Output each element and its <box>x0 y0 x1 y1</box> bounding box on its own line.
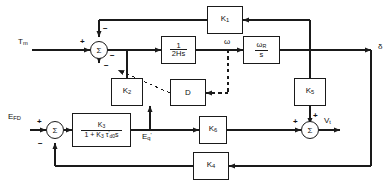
sign-field-plus: + <box>37 118 42 126</box>
sign-torque-minus-top: − <box>103 25 108 33</box>
torque-summing-junction[interactable]: Σ <box>90 41 108 59</box>
field-voltage-input-label: EFD <box>8 113 21 122</box>
q-axis-voltage-label: Eq' <box>142 133 152 142</box>
sign-torque-minus-right: − <box>110 52 115 60</box>
exciter-transfer-block[interactable]: K3 1 + K3 τ'd0s <box>72 113 131 147</box>
block-diagram-canvas: K1 1 2Hs ωR s K2 D K5 K3 1 + K3 τ'd0s <box>0 0 392 191</box>
field-summing-junction[interactable]: Σ <box>46 121 64 139</box>
gain-block-k5-label: K5 <box>306 87 315 96</box>
rotor-angle-output-label: δ <box>378 43 382 51</box>
inertia-block[interactable]: 1 2Hs <box>161 36 196 64</box>
sign-voltage-plus-top: + <box>313 112 318 120</box>
damping-block-label: D <box>185 89 191 97</box>
field-summing-junction-symbol: Σ <box>53 126 58 135</box>
exciter-transfer-block-label: K3 1 + K3 τ'd0s <box>81 121 121 139</box>
torque-summing-junction-symbol: Σ <box>97 46 102 55</box>
integrator-block[interactable]: ωR s <box>243 36 280 64</box>
sign-torque-minus-bottom: − <box>104 62 109 70</box>
terminal-voltage-output-label: Vt <box>324 117 331 126</box>
gain-block-k5[interactable]: K5 <box>294 78 326 106</box>
gain-block-k2-label: K2 <box>123 87 132 96</box>
damping-block[interactable]: D <box>170 79 206 106</box>
gain-block-k4[interactable]: K4 <box>193 152 229 180</box>
voltage-summing-junction-symbol: Σ <box>308 126 313 135</box>
speed-signal-label: ω <box>224 38 230 46</box>
gain-block-k4-label: K4 <box>207 161 216 170</box>
gain-block-k6[interactable]: K6 <box>199 116 227 144</box>
gain-block-k1[interactable]: K1 <box>207 6 243 34</box>
mechanical-torque-input-label: Tm <box>18 38 28 47</box>
sign-torque-plus: + <box>80 38 85 46</box>
gain-block-k2[interactable]: K2 <box>111 78 143 106</box>
sign-voltage-plus-left: + <box>293 118 298 126</box>
integrator-block-label: ωR s <box>255 41 269 59</box>
gain-block-k6-label: K6 <box>209 125 218 134</box>
sign-field-minus: − <box>38 140 43 148</box>
gain-block-k1-label: K1 <box>221 15 230 24</box>
voltage-summing-junction[interactable]: Σ <box>301 121 319 139</box>
inertia-block-label: 1 2Hs <box>170 42 187 59</box>
